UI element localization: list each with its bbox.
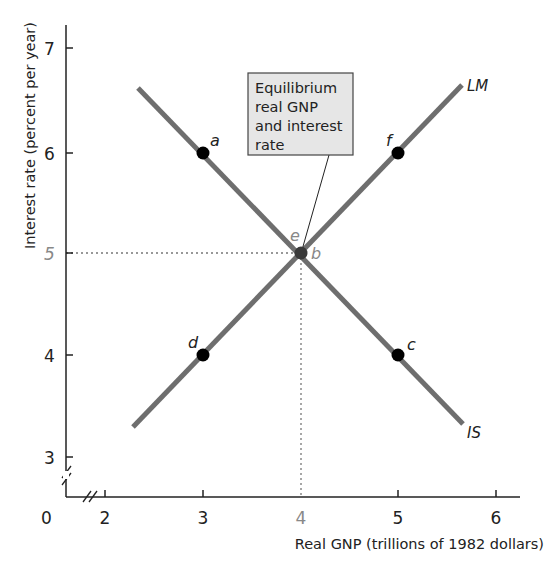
x-tick-label-5: 5 <box>393 508 404 528</box>
y-axis-title: Interest rate (percent per year) <box>22 22 38 249</box>
y-tick-label-7: 7 <box>44 39 55 59</box>
x-tick-label-4: 4 <box>296 508 307 528</box>
equilibrium-point-marker <box>295 247 308 260</box>
point-f-label: f <box>386 131 394 150</box>
x-tick-label-6: 6 <box>491 508 502 528</box>
point-f-marker <box>392 147 405 160</box>
callout-line-2: real GNP <box>255 99 318 115</box>
y-tick-label-4: 4 <box>44 346 55 366</box>
equilibrium-callout: Equilibrium real GNP and interest rate <box>248 73 353 155</box>
point-a-label: a <box>210 131 220 150</box>
callout-line-4: rate <box>255 137 285 153</box>
x-tick-label-origin: 0 <box>41 508 52 528</box>
point-c-label: c <box>407 335 416 354</box>
point-d-marker <box>197 349 210 362</box>
point-c-marker <box>392 349 405 362</box>
x-axis-title: Real GNP (trillions of 1982 dollars) <box>295 536 544 552</box>
callout-line-3: and interest <box>255 118 343 134</box>
callout-line-1: Equilibrium <box>255 80 337 96</box>
point-b-label: b <box>311 244 321 263</box>
y-tick-label-5: 5 <box>44 244 55 264</box>
point-a-marker <box>197 147 210 160</box>
y-tick-label-6: 6 <box>44 144 55 164</box>
is-lm-chart: 7 6 5 4 3 0 2 3 4 5 6 Real GNP (trillion… <box>0 0 554 567</box>
x-tick-label-2: 2 <box>100 508 111 528</box>
point-d-label: d <box>188 333 199 352</box>
y-ticks <box>66 48 73 457</box>
y-tick-label-3: 3 <box>44 448 55 468</box>
x-tick-label-3: 3 <box>198 508 209 528</box>
lm-curve-label: LM <box>467 77 488 95</box>
is-curve-label: IS <box>467 424 481 442</box>
point-e-label: e <box>290 226 300 245</box>
